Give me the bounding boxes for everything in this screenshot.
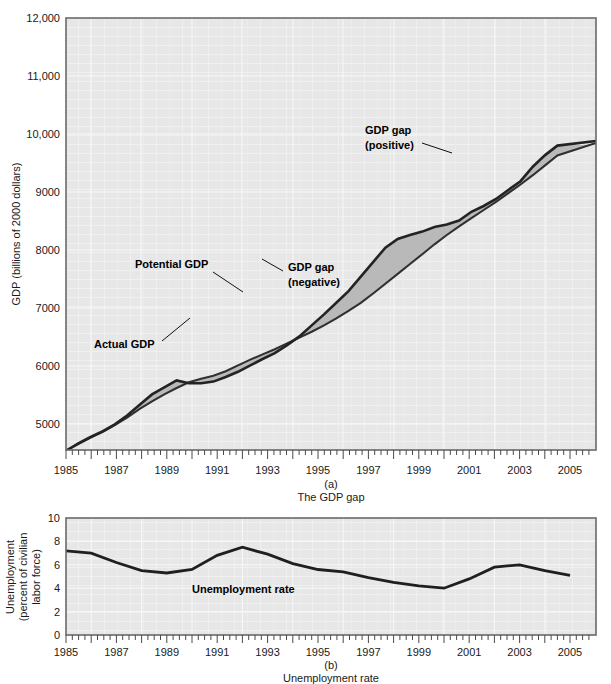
panel-a-xtick-2: 1989 — [155, 464, 179, 476]
panel-b-xtick-10: 2005 — [558, 646, 582, 658]
panel-b-ytick-0: 10 — [48, 512, 60, 524]
panel-b-xtick-0: 1985 — [54, 646, 78, 658]
panel-b-xtick-6: 1997 — [356, 646, 380, 658]
panel-a-ytick-7: 5000 — [36, 418, 60, 430]
figure-gdp-gap-unemployment: 12,000 11,000 10,000 9000 8000 7000 6000… — [0, 0, 611, 684]
panel-a-xtick-8: 2001 — [457, 464, 481, 476]
panel-b-xtick-3: 1991 — [205, 646, 229, 658]
panel-a-xtick-7: 1999 — [407, 464, 431, 476]
panel-b-xtick-5: 1995 — [306, 646, 330, 658]
panel-b-xtick-1: 1987 — [104, 646, 128, 658]
potential-gdp-label: Potential GDP — [135, 258, 208, 270]
panel-b-ytick-3: 4 — [54, 582, 60, 594]
panel-a-ytick-2: 10,000 — [26, 128, 60, 140]
panel-a-xtick-10: 2005 — [558, 464, 582, 476]
panel-a: 12,000 11,000 10,000 9000 8000 7000 6000… — [10, 12, 596, 503]
panel-b-xtick-9: 2003 — [507, 646, 531, 658]
panel-b-xtick-8: 2001 — [457, 646, 481, 658]
actual-gdp-label: Actual GDP — [94, 338, 155, 350]
unemployment-rate-label: Unemployment rate — [192, 583, 295, 595]
panel-a-xtick-5: 1995 — [306, 464, 330, 476]
panel-a-ytick-4: 8000 — [36, 244, 60, 256]
panel-b-ylabel-line-2: labor force) — [30, 549, 42, 605]
panel-b-letter: (b) — [324, 659, 337, 671]
panel-b-caption: Unemployment rate — [283, 672, 379, 684]
panel-a-letter: (a) — [324, 478, 337, 490]
panel-b-xtick-4: 1993 — [255, 646, 279, 658]
panel-b-ytick-4: 2 — [54, 606, 60, 618]
panel-a-xtick-3: 1991 — [205, 464, 229, 476]
panel-a-ytick-6: 6000 — [36, 360, 60, 372]
panel-b-ytick-5: 0 — [54, 629, 60, 641]
panel-a-ytick-3: 9000 — [36, 186, 60, 198]
panel-b-ytick-1: 8 — [54, 535, 60, 547]
panel-b-ytick-2: 6 — [54, 559, 60, 571]
panel-a-ytick-0: 12,000 — [26, 12, 60, 24]
panel-a-ytick-1: 11,000 — [27, 70, 60, 82]
gdp-gap-negative-label-line2: (negative) — [288, 276, 340, 288]
panel-b-xtick-7: 1999 — [407, 646, 431, 658]
gdp-gap-positive-label-line2: (positive) — [365, 139, 414, 151]
panel-b-xtick-2: 1989 — [155, 646, 179, 658]
panel-a-xtick-4: 1993 — [255, 464, 279, 476]
panel-a-xtick-0: 1985 — [54, 464, 78, 476]
panel-a-y-axis-label: GDP (billions of 2000 dollars) — [10, 163, 22, 306]
panel-a-plot-background — [66, 18, 596, 450]
panel-a-xtick-1: 1987 — [104, 464, 128, 476]
panel-a-ytick-5: 7000 — [36, 302, 60, 314]
panel-b-ylabel-line-0: Unemployment — [4, 540, 16, 614]
panel-a-xtick-6: 1997 — [356, 464, 380, 476]
panel-a-xtick-9: 2003 — [507, 464, 531, 476]
panel-b-plot-background — [66, 518, 596, 635]
gdp-gap-positive-label-line1: GDP gap — [365, 124, 412, 136]
panel-b-ylabel-line-1: (percent of civilian — [17, 533, 29, 622]
gdp-gap-negative-label-line1: GDP gap — [288, 261, 335, 273]
panel-a-caption: The GDP gap — [297, 491, 364, 503]
